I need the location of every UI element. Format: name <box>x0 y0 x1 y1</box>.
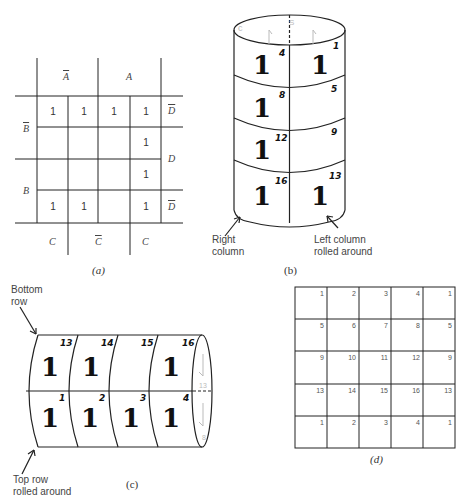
faint-arrows-b <box>269 30 316 44</box>
label-right-column: Right column <box>212 234 244 258</box>
row-header-d-bar-top: D <box>168 105 175 117</box>
kmap-grid-a <box>15 58 183 255</box>
caption-c: (c) <box>126 478 138 490</box>
cell-number: 16 <box>182 338 195 348</box>
col-header-c-left: C <box>49 236 56 248</box>
grid-cell-number: 13 <box>296 387 324 394</box>
grid-cell-number: 1 <box>296 419 324 426</box>
cell-one: 1 <box>81 405 99 431</box>
faint-label-8: 8 <box>202 432 206 444</box>
kmap-cell: 1 <box>99 106 129 117</box>
cell-number: 12 <box>275 133 288 143</box>
cell-number: 2 <box>99 393 105 403</box>
grid-cell-number: 1 <box>424 419 452 426</box>
grid-cell-number: 2 <box>328 419 356 426</box>
row-header-b-bar: B <box>23 123 29 135</box>
col-header-c-bar: C <box>95 236 102 248</box>
grid-cell-number: 4 <box>392 419 420 426</box>
cell-number: 16 <box>275 176 288 186</box>
grid-cell-number: 2 <box>328 290 356 297</box>
cell-one: 1 <box>253 183 271 209</box>
grid-cell-number: 1 <box>424 290 452 297</box>
grid-cell-number: 7 <box>360 322 388 329</box>
label-line: column <box>212 246 244 258</box>
row-header-d: D <box>168 153 175 165</box>
label-line: row <box>11 296 43 308</box>
faint-label-s: S <box>289 17 294 29</box>
cell-one: 1 <box>311 183 329 209</box>
grid-cell-number: 3 <box>360 290 388 297</box>
grid-cell-number: 4 <box>392 290 420 297</box>
grid-cell-number: 5 <box>296 322 324 329</box>
row-header-b: B <box>23 185 29 197</box>
label-line: rolled around <box>13 486 71 498</box>
cell-number: 4 <box>279 48 285 58</box>
kmap-cell: 1 <box>69 201 99 212</box>
cell-number: 14 <box>101 338 114 348</box>
caption-d: (d) <box>370 453 383 465</box>
cell-number: 13 <box>329 171 342 181</box>
col-header-a-bar: A <box>63 71 69 83</box>
kmap-cell: 1 <box>69 106 99 117</box>
cell-one: 1 <box>41 405 59 431</box>
kmap-cell: 1 <box>38 106 68 117</box>
label-top-row-rolled: Top row rolled around <box>13 474 71 498</box>
label-line: Right <box>212 234 244 246</box>
grid-cell-number: 12 <box>392 354 420 361</box>
grid-cell-number: 5 <box>424 322 452 329</box>
caption-b: (b) <box>284 264 297 276</box>
cell-number: 13 <box>60 338 73 348</box>
cell-one: 1 <box>122 405 140 431</box>
label-bottom-row: Bottom row <box>11 284 43 308</box>
cell-one: 1 <box>41 354 59 380</box>
kmap-cell: 1 <box>131 169 161 180</box>
grid-cell-number: 6 <box>328 322 356 329</box>
col-header-a: A <box>126 71 132 83</box>
caption-a: (a) <box>92 264 105 276</box>
cell-number: 9 <box>331 127 337 137</box>
faint-label-13: 13 <box>199 380 207 392</box>
label-line: Bottom <box>11 284 43 296</box>
label-line: Top row <box>13 474 71 486</box>
grid-cell-number: 8 <box>392 322 420 329</box>
grid-cell-number: 10 <box>328 354 356 361</box>
cell-number: 15 <box>141 338 154 348</box>
grid-cell-number: 13 <box>424 387 452 394</box>
cell-one: 1 <box>162 405 180 431</box>
grid-cell-number: 9 <box>424 354 452 361</box>
col-header-c-right: C <box>142 236 149 248</box>
cell-number: 5 <box>331 84 337 94</box>
grid-cell-number: 11 <box>360 354 388 361</box>
grid-cell-number: 1 <box>296 290 324 297</box>
kmap-cell: 1 <box>38 201 68 212</box>
cell-number: 8 <box>279 90 285 100</box>
cell-one: 1 <box>311 52 329 78</box>
label-line: Left column <box>314 234 372 246</box>
cell-number: 3 <box>140 393 146 403</box>
grid-cell-number: 15 <box>360 387 388 394</box>
grid-cell-number: 9 <box>296 354 324 361</box>
kmap-cell: 1 <box>131 106 161 117</box>
cell-one: 1 <box>253 137 271 163</box>
cell-one: 1 <box>82 354 100 380</box>
row-header-d-bar-bottom: D <box>168 201 175 213</box>
cell-number: 4 <box>183 393 189 403</box>
grid-cell-number: 3 <box>360 419 388 426</box>
faint-label-c: c <box>238 22 243 34</box>
kmap-cell: 1 <box>131 201 161 212</box>
cell-one: 1 <box>253 95 271 121</box>
grid-cell-number: 14 <box>328 387 356 394</box>
label-line: rolled around <box>314 246 372 258</box>
kmap-cell: 1 <box>131 137 161 148</box>
cell-one: 1 <box>162 354 180 380</box>
cell-one: 1 <box>253 52 271 78</box>
grid-cell-number: 16 <box>392 387 420 394</box>
cylinder-c <box>20 307 212 474</box>
label-left-column-rolled: Left column rolled around <box>314 234 372 258</box>
cell-number: 1 <box>59 393 65 403</box>
cell-number: 1 <box>333 41 339 51</box>
